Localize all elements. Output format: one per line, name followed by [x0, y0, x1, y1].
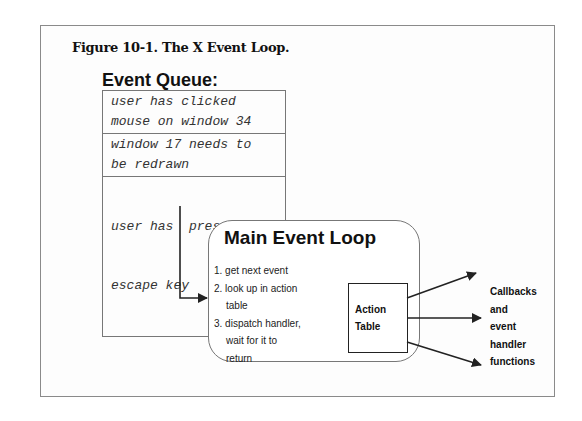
callback-arrow-icon: [407, 273, 476, 298]
queue-to-loop-arrow-icon: [180, 206, 207, 298]
callback-arrow-icon: [407, 342, 481, 365]
connector-arrows: [0, 0, 582, 421]
